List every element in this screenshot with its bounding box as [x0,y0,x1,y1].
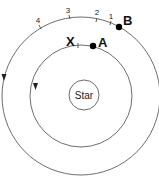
orbit-diagram: Star 1 2 3 4 B X A [0,0,159,180]
tick-label-3: 3 [66,6,71,15]
planet-b-label: B [123,13,132,28]
marker-x-label: X [66,34,75,49]
planet-a-label: A [98,35,108,50]
outer-orbit-arrow-icon [2,74,7,81]
tick-label-4: 4 [36,16,41,25]
tick-label-1: 1 [109,12,114,21]
planet-b-dot [116,24,122,30]
tick-label-2: 2 [95,8,100,17]
star-label: Star [75,90,94,101]
planet-a-dot [90,43,96,49]
inner-orbit-arrow-icon [33,83,38,90]
